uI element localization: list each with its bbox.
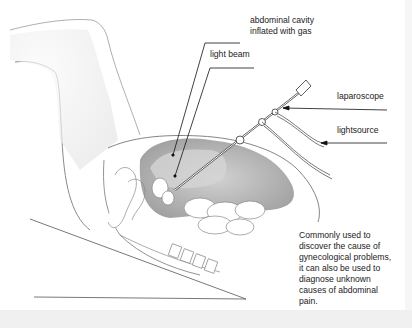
note-line: pain. xyxy=(299,296,412,307)
spine xyxy=(120,235,220,273)
label-light-beam: light beam xyxy=(210,49,250,60)
label-abdominal-cavity-line1: abdominal cavity xyxy=(250,15,314,26)
note-line: gynecological problems, xyxy=(299,252,412,263)
note-line: diagnose unknown xyxy=(299,274,412,285)
note-line: Commonly used to xyxy=(299,230,412,241)
note-line: causes of abdominal xyxy=(299,285,412,296)
note-line: discover the cause of xyxy=(299,241,412,252)
label-abdominal-cavity-line2: inflated with gas xyxy=(250,26,314,37)
diagram-canvas: abdominal cavity inflated with gas light… xyxy=(0,0,405,310)
note-line: it can also be used to xyxy=(299,263,412,274)
description-note: Commonly used to discover the cause of g… xyxy=(299,230,412,307)
bottom-margin xyxy=(0,310,412,328)
label-abdominal-cavity: abdominal cavity inflated with gas xyxy=(250,15,314,36)
label-lightsource: lightsource xyxy=(337,125,379,136)
label-laparoscope: laparoscope xyxy=(337,91,384,102)
right-margin xyxy=(405,0,412,328)
